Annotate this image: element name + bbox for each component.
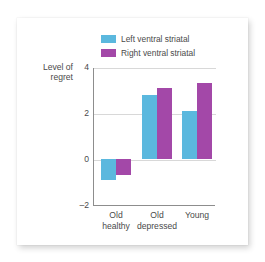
y-tick-label: 4 [73,63,89,72]
x-tick-label: Young [169,210,225,221]
legend-label: Left ventral striatal [121,34,189,44]
y-axis-title-line1: Level of [43,62,73,72]
legend-swatch-icon [101,35,116,43]
y-axis-title: Level of regret [21,62,73,82]
figure-card: Left ventral striatal Right ventral stri… [17,18,248,245]
legend-item-left-ventral-striatal: Left ventral striatal [101,32,241,45]
legend-item-right-ventral-striatal: Right ventral striatal [101,46,241,59]
bar-group [138,67,178,205]
bar-left-ventral-striatal [182,111,197,159]
x-axis-tick-labels: Old healthy Old depressed Young [93,210,215,240]
bar-right-ventral-striatal [157,88,172,159]
legend-swatch-icon [101,49,116,57]
x-tick-label-line1: Young [169,210,225,221]
bar-right-ventral-striatal [197,83,212,159]
bar-right-ventral-striatal [116,159,131,175]
legend-label: Right ventral striatal [121,48,195,58]
y-axis-title-line2: regret [51,72,73,82]
bar-group [178,67,218,205]
y-axis-tick-labels: 4 2 0 –2 [71,68,89,206]
x-tick-label-line2: depressed [129,221,185,232]
bar-left-ventral-striatal [101,159,116,180]
y-tick-label: –2 [73,201,89,210]
plot-area [93,68,215,206]
y-tick-label: 2 [73,109,89,118]
bar-left-ventral-striatal [142,95,157,159]
chart-legend: Left ventral striatal Right ventral stri… [101,32,241,60]
bar-group [97,67,137,205]
y-tick-label: 0 [73,155,89,164]
